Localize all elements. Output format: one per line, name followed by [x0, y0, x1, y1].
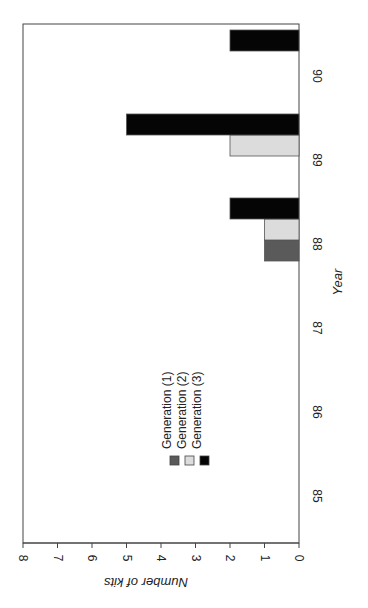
y-axis-title: Number of kits — [104, 575, 188, 590]
bar — [127, 114, 300, 135]
category-label: 87 — [310, 321, 324, 335]
bar — [265, 219, 300, 240]
bar — [230, 30, 299, 51]
value-tick-label: 7 — [51, 555, 65, 562]
legend-swatch — [170, 456, 179, 465]
legend-label: Generation (2) — [175, 372, 189, 449]
legend-swatch — [185, 456, 194, 465]
legend-label: Generation (3) — [190, 372, 204, 449]
plot-frame — [23, 24, 299, 543]
bar — [230, 198, 299, 219]
value-tick-label: 5 — [120, 555, 134, 562]
legend-swatch — [200, 456, 209, 465]
category-axis: 858687888990 — [310, 69, 324, 503]
value-tick-label: 0 — [292, 555, 306, 562]
bar — [265, 240, 300, 261]
value-tick-label: 8 — [16, 555, 30, 562]
x-axis-title: Year — [330, 268, 345, 295]
category-label: 89 — [310, 153, 324, 167]
bar — [230, 135, 299, 156]
value-axis: 012345678 — [16, 543, 306, 562]
legend-label: Generation (1) — [160, 372, 174, 449]
category-label: 86 — [310, 405, 324, 419]
category-label: 85 — [310, 489, 324, 503]
value-tick-label: 4 — [154, 555, 168, 562]
value-tick-label: 2 — [223, 555, 237, 562]
category-label: 90 — [310, 69, 324, 83]
bar-chart: 012345678 858687888990 Number of kits Ye… — [0, 0, 368, 608]
value-tick-label: 6 — [85, 555, 99, 562]
value-tick-label: 1 — [258, 555, 272, 562]
value-tick-label: 3 — [189, 555, 203, 562]
category-label: 88 — [310, 237, 324, 251]
